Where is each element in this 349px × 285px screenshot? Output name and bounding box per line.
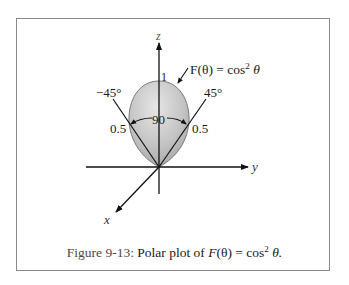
caption-tail: θ.: [269, 245, 282, 260]
left-half-power-label: 0.5: [110, 122, 126, 135]
right-half-power-label: 0.5: [192, 122, 208, 135]
x-axis-label: x: [104, 213, 110, 226]
polar-plot-diagram: [0, 0, 349, 285]
function-label-text: F(θ) = cos: [190, 62, 245, 77]
plus-45-label: 45°: [204, 86, 222, 99]
beamwidth-label: 90: [152, 113, 165, 126]
function-label: F(θ) = cos2 θ: [190, 62, 260, 77]
function-label-pointer: [178, 68, 188, 83]
z-axis-label: z: [156, 30, 161, 42]
caption-argument: (θ) = cos: [216, 245, 264, 260]
x-axis: [116, 167, 159, 212]
y-axis-label: y: [252, 160, 258, 173]
peak-value-label: 1: [161, 71, 167, 83]
figure-number: Figure 9-13:: [67, 245, 134, 260]
function-label-tail: θ: [250, 62, 260, 77]
caption-text: Polar plot of: [137, 245, 205, 260]
figure-caption: Figure 9-13: Polar plot of F(θ) = cos2 θ…: [0, 244, 349, 261]
minus-45-label: −45°: [96, 86, 122, 99]
